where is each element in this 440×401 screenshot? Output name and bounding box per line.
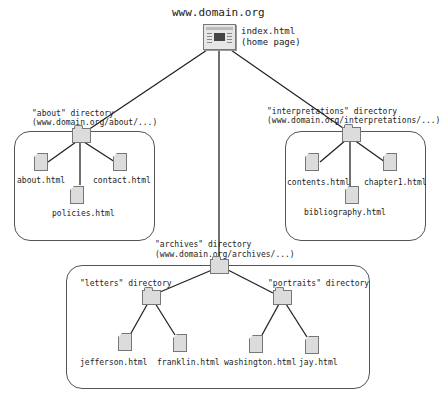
jefferson-file-label: jefferson.html [80, 358, 147, 368]
text-lines [227, 33, 232, 43]
bibliography-file-icon[interactable] [345, 186, 359, 204]
contents-file-icon[interactable] [305, 153, 319, 171]
about-dir-path: (www.domain.org/about/...) [32, 118, 157, 128]
home-note-label: (home page) [241, 37, 301, 48]
washington-file-label: washington.html [224, 358, 296, 368]
chapter1-file-label: chapter1.html [364, 178, 427, 188]
archives-folder-icon[interactable] [210, 259, 229, 274]
domain-title: www.domain.org [172, 6, 265, 19]
home-file-label: index.html [241, 26, 295, 37]
image-thumbnail [214, 33, 225, 41]
franklin-file-label: franklin.html [157, 358, 220, 368]
text-lines [207, 33, 212, 43]
about-file-icon[interactable] [34, 153, 48, 171]
contact-file-icon[interactable] [113, 153, 127, 171]
portraits-folder-icon[interactable] [273, 290, 292, 305]
jay-file-icon[interactable] [305, 336, 319, 354]
chapter1-file-icon[interactable] [383, 153, 397, 171]
archives-dir-label: "archives" directory [155, 240, 251, 250]
jay-file-label: jay.html [299, 358, 338, 368]
contact-file-label: contact.html [93, 176, 151, 186]
browser-bar [206, 27, 233, 30]
franklin-file-icon[interactable] [173, 334, 187, 352]
interpretations-folder-icon[interactable] [342, 127, 361, 142]
policies-file-icon[interactable] [70, 186, 84, 204]
about-folder-icon[interactable] [72, 128, 91, 143]
contents-file-label: contents.html [287, 178, 350, 188]
about-dir-box [14, 131, 155, 241]
washington-file-icon[interactable] [249, 335, 263, 353]
letters-dir-label: "letters" directory [80, 279, 172, 289]
about-file-label: about.html [17, 176, 65, 186]
bibliography-file-label: bibliography.html [304, 208, 386, 218]
jefferson-file-icon[interactable] [118, 333, 132, 351]
letters-folder-icon[interactable] [142, 290, 161, 305]
home-page-icon[interactable] [203, 24, 236, 50]
policies-file-label: policies.html [52, 209, 115, 219]
interpretations-dir-path: (www.domain.org/interpretations/...) [267, 116, 440, 126]
